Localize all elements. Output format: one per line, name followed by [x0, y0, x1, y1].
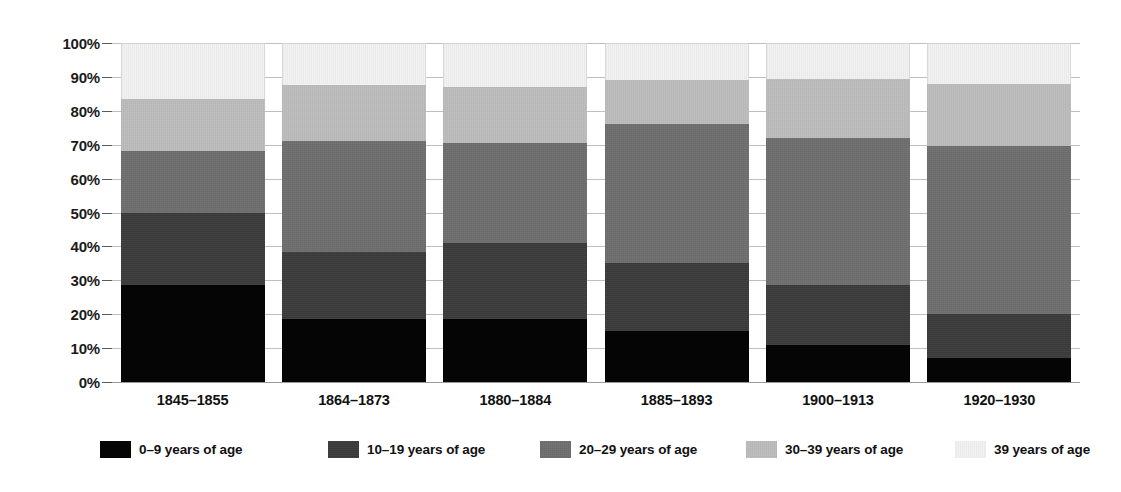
- legend-item[interactable]: 39 years of age: [955, 441, 1090, 458]
- bar-segment[interactable]: [121, 43, 265, 99]
- bar-segment[interactable]: [282, 85, 426, 141]
- bar-1880–1884[interactable]: [443, 43, 587, 382]
- y-tick-label: 10%: [20, 340, 100, 357]
- bar-1885–1893[interactable]: [605, 43, 749, 382]
- y-tick-label: 40%: [20, 238, 100, 255]
- bar-segment[interactable]: [443, 319, 587, 382]
- y-axis-tick: [102, 77, 112, 78]
- x-axis-labels: 1845–18551864–18731880–18841885–18931900…: [112, 392, 1080, 418]
- y-axis-tick: [102, 348, 112, 349]
- bar-1900–1913[interactable]: [766, 43, 910, 382]
- y-axis-tick: [102, 280, 112, 281]
- legend-item[interactable]: 20–29 years of age: [540, 441, 697, 458]
- y-axis-tick: [102, 382, 112, 383]
- x-tick-label: 1845–1855: [112, 392, 273, 408]
- bar-segment[interactable]: [605, 80, 749, 124]
- legend-item[interactable]: 30–39 years of age: [746, 441, 903, 458]
- legend-item[interactable]: 10–19 years of age: [328, 441, 485, 458]
- bar-segment[interactable]: [443, 43, 587, 87]
- y-axis-tick: [102, 43, 112, 44]
- y-tick-label: 60%: [20, 170, 100, 187]
- y-tick-label: 0%: [20, 374, 100, 391]
- bar-segment[interactable]: [766, 79, 910, 138]
- y-tick-label: 100%: [20, 35, 100, 52]
- bar-segment[interactable]: [282, 252, 426, 320]
- y-axis-tick: [102, 314, 112, 315]
- y-axis-labels: 100%90%80%70%60%50%40%30%20%10%0%: [12, 43, 100, 382]
- x-tick-label: 1864–1873: [273, 392, 434, 408]
- y-tick-label: 30%: [20, 272, 100, 289]
- y-axis-tick: [102, 111, 112, 112]
- legend-item[interactable]: 0–9 years of age: [100, 441, 242, 458]
- bar-segment[interactable]: [282, 319, 426, 382]
- legend-label: 39 years of age: [994, 442, 1090, 457]
- bar-segment[interactable]: [766, 138, 910, 285]
- bar-segment[interactable]: [766, 345, 910, 382]
- bar-segment[interactable]: [443, 243, 587, 319]
- x-tick-label: 1900–1913: [757, 392, 918, 408]
- y-axis-tick: [102, 179, 112, 180]
- y-tick-label: 50%: [20, 204, 100, 221]
- y-tick-label: 70%: [20, 136, 100, 153]
- plot-area: [112, 43, 1080, 382]
- bar-segment[interactable]: [121, 151, 265, 212]
- x-tick-label: 1920–1930: [919, 392, 1080, 408]
- bar-segment[interactable]: [927, 84, 1071, 147]
- bar-1920–1930[interactable]: [927, 43, 1071, 382]
- legend-swatch-30-39: [746, 441, 777, 458]
- legend-label: 30–39 years of age: [785, 442, 903, 457]
- legend-swatch-20-29: [540, 441, 571, 458]
- bar-segment[interactable]: [443, 87, 587, 143]
- bar-segment[interactable]: [443, 143, 587, 243]
- y-axis-tick: [102, 145, 112, 146]
- legend-swatch-10-19: [328, 441, 359, 458]
- bar-segment[interactable]: [766, 43, 910, 79]
- legend-label: 10–19 years of age: [367, 442, 485, 457]
- y-tick-label: 80%: [20, 102, 100, 119]
- bar-segment[interactable]: [121, 213, 265, 286]
- x-tick-label: 1885–1893: [596, 392, 757, 408]
- y-axis-tick: [102, 213, 112, 214]
- bar-segment[interactable]: [927, 314, 1071, 358]
- y-axis-tick: [102, 246, 112, 247]
- bar-segment[interactable]: [927, 43, 1071, 84]
- bar-segment[interactable]: [605, 263, 749, 331]
- bar-segment[interactable]: [605, 43, 749, 80]
- bar-segment[interactable]: [282, 141, 426, 251]
- bar-segment[interactable]: [927, 358, 1071, 382]
- bar-segment[interactable]: [121, 285, 265, 382]
- legend-swatch-39-plus: [955, 441, 986, 458]
- bar-segment[interactable]: [605, 331, 749, 382]
- legend-label: 0–9 years of age: [139, 442, 242, 457]
- bar-segment[interactable]: [605, 124, 749, 263]
- legend-label: 20–29 years of age: [579, 442, 697, 457]
- bar-segment[interactable]: [927, 146, 1071, 314]
- chart-legend: 0–9 years of age10–19 years of age20–29 …: [100, 437, 1060, 461]
- y-tick-label: 90%: [20, 68, 100, 85]
- stacked-bar-chart: 100%90%80%70%60%50%40%30%20%10%0% 1845–1…: [0, 0, 1121, 492]
- y-tick-label: 20%: [20, 306, 100, 323]
- bar-segment[interactable]: [282, 43, 426, 85]
- bar-segment[interactable]: [766, 285, 910, 344]
- x-tick-label: 1880–1884: [435, 392, 596, 408]
- bar-segment[interactable]: [121, 99, 265, 152]
- bar-1864–1873[interactable]: [282, 43, 426, 382]
- gridline: [112, 382, 1080, 383]
- legend-swatch-0-9: [100, 441, 131, 458]
- bar-1845–1855[interactable]: [121, 43, 265, 382]
